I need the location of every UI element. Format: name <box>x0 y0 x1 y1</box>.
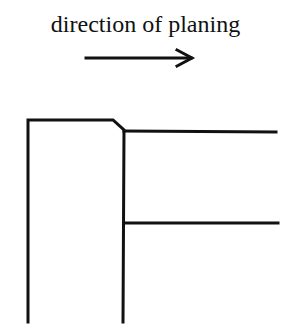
upper-horizontal-line <box>124 131 276 132</box>
left-block-outline <box>28 120 124 322</box>
planing-diagram <box>0 0 291 325</box>
right-arrow-icon <box>86 50 192 66</box>
